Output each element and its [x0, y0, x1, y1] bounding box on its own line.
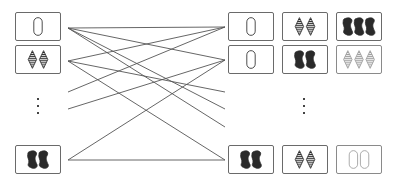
- ellipsis-dot: [303, 98, 305, 100]
- right-card-R1-1: [228, 12, 274, 41]
- connection-line: [68, 27, 225, 92]
- left-card-L2: [15, 45, 61, 74]
- ellipsis-dot: [303, 112, 305, 114]
- right-card-R1-3: [336, 12, 382, 41]
- connection-line: [68, 60, 225, 109]
- right-card-R3-1: [228, 145, 274, 174]
- left-card-L1: [15, 12, 61, 41]
- connection-line: [68, 27, 225, 61]
- connection-line: [68, 28, 225, 109]
- matching-diagram: [0, 0, 396, 187]
- ellipsis-dot: [37, 98, 39, 100]
- right-card-R3-2: [282, 145, 328, 174]
- right-card-R2-1: [228, 45, 274, 74]
- connection-line: [68, 61, 225, 92]
- ellipsis-dot: [303, 105, 305, 107]
- right-card-R3-3: [336, 145, 382, 174]
- left-card-L3: [15, 145, 61, 174]
- right-card-R2-2: [282, 45, 328, 74]
- right-card-R2-3: [336, 45, 382, 74]
- right-card-R1-2: [282, 12, 328, 41]
- ellipsis-dot: [37, 105, 39, 107]
- connection-line: [68, 27, 225, 28]
- ellipsis-dot: [37, 112, 39, 114]
- connection-line: [68, 28, 225, 127]
